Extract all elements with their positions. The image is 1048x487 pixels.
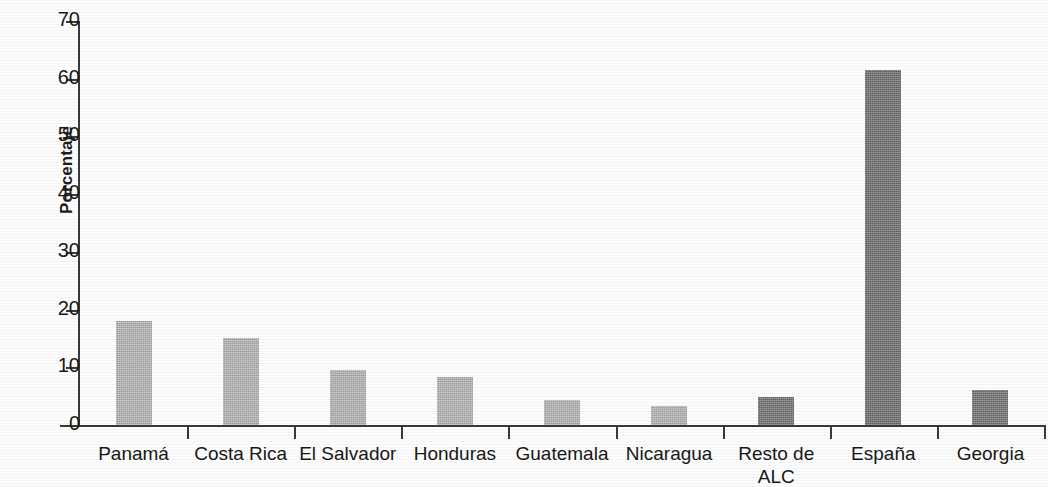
x-axis-label: Nicaragua bbox=[616, 442, 723, 465]
bar-nicaragua bbox=[651, 406, 687, 425]
x-axis-label: Panamá bbox=[80, 442, 187, 465]
x-axis-label: El Salvador bbox=[294, 442, 401, 465]
x-axis-label: Honduras bbox=[401, 442, 508, 465]
bar-texture bbox=[116, 321, 152, 425]
bar-guatemala bbox=[544, 400, 580, 425]
x-axis-label: Georgia bbox=[937, 442, 1044, 465]
x-tick-mark bbox=[294, 427, 296, 439]
bar-texture bbox=[437, 377, 473, 425]
x-tick-mark bbox=[508, 427, 510, 439]
x-axis-label: España bbox=[830, 442, 937, 465]
bar-georgia bbox=[972, 390, 1008, 425]
x-tick-mark bbox=[723, 427, 725, 439]
bar-honduras bbox=[437, 377, 473, 425]
x-tick-mark bbox=[1044, 427, 1046, 439]
bar-texture bbox=[865, 70, 901, 425]
x-tick-mark bbox=[937, 427, 939, 439]
x-tick-mark bbox=[616, 427, 618, 439]
bar-texture bbox=[972, 390, 1008, 425]
bar-panamá bbox=[116, 321, 152, 425]
x-tick-mark bbox=[830, 427, 832, 439]
bar-texture bbox=[330, 370, 366, 425]
x-axis-label: Resto de ALC bbox=[723, 442, 830, 487]
plot-area bbox=[0, 0, 1048, 427]
x-axis-label: Guatemala bbox=[508, 442, 615, 465]
bar-texture bbox=[544, 400, 580, 425]
bar-texture bbox=[758, 397, 794, 425]
bar-el-salvador bbox=[330, 370, 366, 425]
x-axis-label: Costa Rica bbox=[187, 442, 294, 465]
bar-chart-figure: Porcentaje 706050403020100 PanamáCosta R… bbox=[0, 0, 1048, 487]
bar-españa bbox=[865, 70, 901, 425]
bar-resto-de-alc bbox=[758, 397, 794, 425]
x-tick-mark bbox=[401, 427, 403, 439]
x-tick-mark bbox=[187, 427, 189, 439]
bar-texture bbox=[651, 406, 687, 425]
bar-texture bbox=[223, 338, 259, 425]
bar-costa-rica bbox=[223, 338, 259, 425]
